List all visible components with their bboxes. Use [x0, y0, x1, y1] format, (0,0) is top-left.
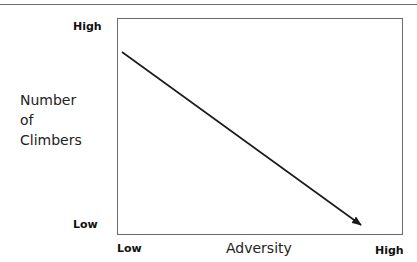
y-axis-title: Number of Climbers	[20, 90, 82, 150]
y-axis-high-label: High	[73, 20, 102, 33]
x-axis-title: Adversity	[226, 240, 292, 256]
y-axis-title-line-3: Climbers	[20, 130, 82, 150]
x-axis-high-label: High	[375, 244, 404, 257]
x-axis-low-label: Low	[117, 242, 142, 255]
y-axis-title-line-2: of	[20, 110, 82, 130]
y-axis-title-line-1: Number	[20, 90, 82, 110]
y-axis-low-label: Low	[73, 218, 98, 231]
